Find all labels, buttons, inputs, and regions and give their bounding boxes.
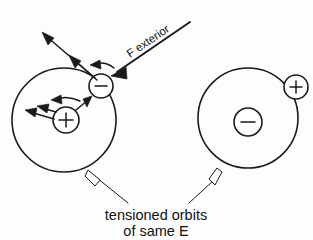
attraction-vector-arrowhead	[83, 96, 92, 107]
nucleus-motion-curved-arrowhead	[51, 95, 62, 104]
external-force-label: F exterior	[124, 22, 171, 59]
nucleus-tension-vector-short-arrowhead	[37, 104, 49, 113]
nucleus-tension-vector-long-arrowhead	[25, 108, 37, 117]
right-atom	[198, 68, 308, 168]
electron-force-vectors	[42, 32, 114, 80]
left-atom-electron	[89, 74, 113, 98]
right-atom-orbiting-particle	[284, 75, 308, 99]
right-callout-leader	[189, 168, 222, 203]
left-leader-arrowhead	[85, 170, 100, 186]
external-force-arrowhead	[111, 67, 127, 79]
electron-motion-curved-arrowhead	[90, 60, 101, 69]
left-callout-leader	[85, 170, 128, 203]
right-leader-line	[189, 181, 213, 203]
caption-line-1: tensioned orbits	[105, 207, 207, 223]
caption: tensioned orbits of same E	[105, 207, 207, 239]
physics-diagram-figure: F exterior	[0, 0, 313, 240]
external-force-vector: F exterior	[111, 22, 190, 79]
right-atom-nucleus	[234, 108, 262, 136]
left-leader-line	[97, 178, 128, 203]
diagram-canvas: F exterior	[0, 0, 313, 240]
left-atom	[12, 68, 116, 172]
electron-tension-vector-short-arrowhead	[69, 55, 81, 68]
caption-line-2: of same E	[123, 223, 189, 239]
left-atom-nucleus	[53, 107, 79, 133]
electron-tension-vector-long-arrowhead	[42, 32, 54, 45]
